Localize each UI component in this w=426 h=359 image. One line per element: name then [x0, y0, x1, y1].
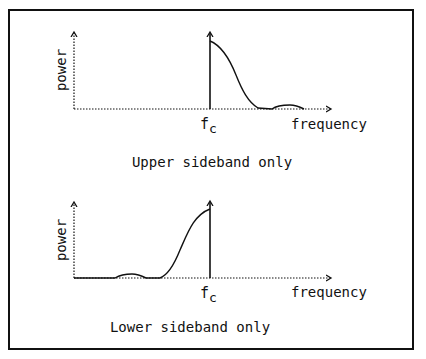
upper-xlabel: frequency	[291, 116, 367, 132]
lower-fc-label: fc	[200, 284, 217, 305]
sideband-diagram: power fc frequency Upper sideband only p…	[0, 0, 426, 359]
lower-ylabel: power	[53, 219, 69, 261]
lower-panel: power fc frequency Lower sideband only	[53, 202, 367, 335]
lower-xlabel: frequency	[291, 284, 367, 300]
upper-ylabel: power	[53, 49, 69, 91]
upper-panel: power fc frequency Upper sideband only	[53, 33, 367, 170]
upper-caption: Upper sideband only	[132, 154, 292, 170]
upper-fc-label: fc	[200, 115, 217, 136]
lower-sideband-curve	[74, 209, 210, 278]
upper-sideband-curve	[210, 41, 304, 109]
lower-caption: Lower sideband only	[110, 319, 270, 335]
